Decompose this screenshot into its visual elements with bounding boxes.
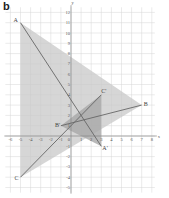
y-tick-label: 11 bbox=[66, 20, 70, 25]
x-tick-label: 3 bbox=[100, 137, 103, 142]
x-tick-label: -2 bbox=[49, 137, 53, 142]
point-label-b: B bbox=[144, 101, 148, 107]
coordinate-plane: -6-5-4-3-2-112345678121110987654321-1-2-… bbox=[0, 0, 169, 198]
y-tick-label: -1 bbox=[66, 144, 70, 149]
x-tick-label: -1 bbox=[59, 137, 63, 142]
point-label-a-prime: A' bbox=[102, 145, 107, 151]
point-label-c-prime: C' bbox=[101, 88, 106, 94]
y-tick-label: -2 bbox=[66, 154, 70, 159]
x-tick-label: 6 bbox=[130, 137, 133, 142]
y-tick-label: 12 bbox=[66, 10, 71, 15]
x-tick-label: 4 bbox=[110, 137, 113, 142]
point-label-b-prime: B' bbox=[55, 122, 60, 128]
x-tick-label: 1 bbox=[80, 137, 82, 142]
x-tick-label: 2 bbox=[90, 137, 92, 142]
x-tick-label: 8 bbox=[151, 137, 154, 142]
y-tick-label: 2 bbox=[68, 113, 70, 118]
x-tick-label: -6 bbox=[9, 137, 13, 142]
x-tick-label: 5 bbox=[120, 137, 123, 142]
x-axis-label: x bbox=[158, 134, 161, 139]
point-label-c: C bbox=[15, 175, 19, 181]
y-tick-label: 10 bbox=[66, 31, 71, 36]
y-axis-label: y bbox=[72, 0, 75, 5]
y-tick-label: 1 bbox=[68, 123, 70, 128]
point-label-a: A bbox=[14, 17, 19, 23]
x-tick-label: 7 bbox=[141, 137, 144, 142]
